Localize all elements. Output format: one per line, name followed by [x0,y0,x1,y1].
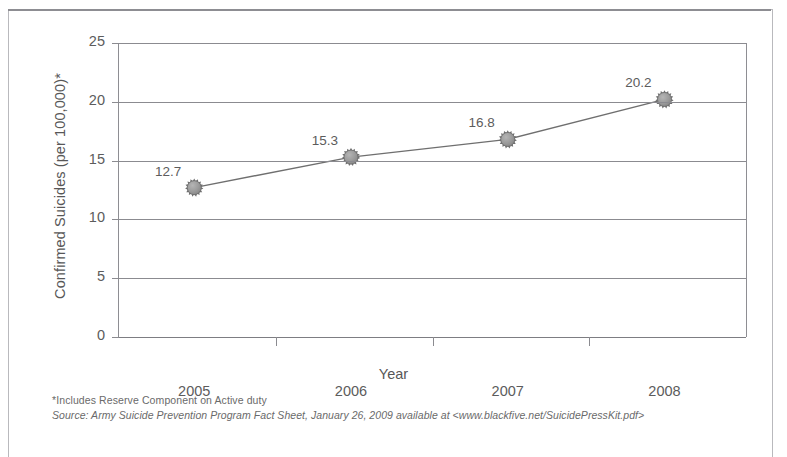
x-tick-2 [433,337,434,346]
gridline-5 [119,278,746,279]
gridline-10 [119,219,746,220]
y-tick-label-25: 25 [73,33,105,49]
footnote-asterisk: *Includes Reserve Component on Active du… [52,394,752,406]
x-tick-1 [276,337,277,346]
plot-area: 0510152025200520062007200812.715.316.820… [118,43,747,337]
y-tick-0 [112,337,119,338]
point-label-2007: 16.8 [469,115,495,130]
gridline-15 [119,161,746,162]
x-axis-title: Year [0,366,787,382]
x-tick-3 [589,337,590,346]
y-axis-title: Confirmed Suicides (per 100,000)* [52,36,68,336]
gridline-20 [119,102,746,103]
y-tick-20 [112,102,119,103]
y-tick-15 [112,161,119,162]
point-label-2008: 20.2 [625,75,651,90]
marker-2005[interactable] [187,181,201,195]
y-tick-5 [112,278,119,279]
point-label-2006: 15.3 [312,133,338,148]
y-tick-label-10: 10 [73,209,105,225]
point-label-2005: 12.7 [155,163,181,178]
marker-2008[interactable] [657,92,671,106]
series-line [194,99,664,187]
footnotes: *Includes Reserve Component on Active du… [52,394,752,421]
marker-2006[interactable] [344,150,358,164]
series-line-and-markers [119,43,746,337]
y-tick-label-20: 20 [73,92,105,108]
y-tick-label-5: 5 [73,268,105,284]
footnote-source: Source: Army Suicide Prevention Program … [52,409,752,421]
y-tick-label-15: 15 [73,151,105,167]
marker-2007[interactable] [501,132,515,146]
gridline-25 [119,43,746,44]
y-tick-10 [112,219,119,220]
series-markers [185,90,674,196]
y-tick-25 [112,43,119,44]
y-tick-label-0: 0 [73,327,105,343]
